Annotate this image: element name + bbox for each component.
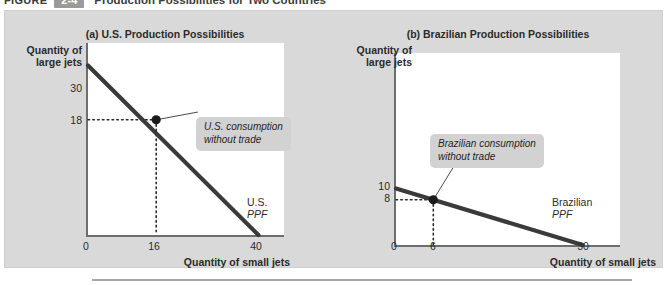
- panel-a-ytick-30: 30: [56, 82, 82, 94]
- panel-a-xtick-16: 16: [141, 240, 167, 252]
- panel-a-x-axis-label: Quantity of small jets: [130, 256, 290, 268]
- panel-a-consumption-point: [152, 115, 161, 124]
- panel-b-xtick-30: 30: [570, 240, 596, 252]
- panel-b-xtick-0: 0: [381, 240, 407, 252]
- figure-number-badge: 2-4: [54, 0, 84, 8]
- panel-b-x-axis-label: Quantity of small jets: [460, 256, 656, 268]
- panel-b-consumption-point: [429, 195, 438, 204]
- panel-b-y-axis-label: Quantity of large jets: [336, 44, 412, 68]
- panel-a-curve-label-line1: U.S.: [247, 196, 267, 208]
- panel-b-ytick-10: 10: [364, 180, 390, 192]
- panel-b-xtick-6: 6: [420, 240, 446, 252]
- panel-b-curve-label: Brazilian PPF: [552, 196, 592, 220]
- panel-a-callout-leader: [156, 112, 198, 120]
- panel-a-xtick-40: 40: [243, 240, 269, 252]
- panel-a-title: (a) U.S. Production Possibilities: [30, 28, 300, 40]
- panel-a-xtick-0: 0: [73, 240, 99, 252]
- panel-b-title: (b) Brazilian Production Possibilities: [348, 28, 648, 40]
- panel-b-ytick-8: 8: [364, 192, 390, 204]
- figure-header: FIGURE 2-4 Production Possibilities for …: [0, 0, 667, 9]
- figure-label: FIGURE: [0, 0, 47, 6]
- panel-a-x-axis: [86, 235, 284, 237]
- panel-a-y-axis-label: Quantity of large jets: [6, 44, 82, 68]
- panel-b-y-axis: [394, 53, 396, 247]
- figure-root: FIGURE 2-4 Production Possibilities for …: [0, 0, 667, 285]
- panel-a-y-axis: [86, 43, 88, 237]
- figure-title: Production Possibilities for Two Countri…: [94, 0, 326, 6]
- panel-b-annotation-callout: Brazilian consumption without trade: [430, 134, 544, 168]
- panel-a-ytick-18: 18: [56, 114, 82, 126]
- panel-a-curve-label: U.S. PPF: [247, 196, 267, 220]
- figure-bottom-rule: [92, 279, 632, 281]
- panel-a-curve-label-line2: PPF: [247, 208, 267, 220]
- panel-a-annotation-callout: U.S. consumption without trade: [196, 117, 291, 151]
- panel-b-curve-label-line1: Brazilian: [552, 196, 592, 208]
- panel-b-curve-label-line2: PPF: [552, 208, 592, 220]
